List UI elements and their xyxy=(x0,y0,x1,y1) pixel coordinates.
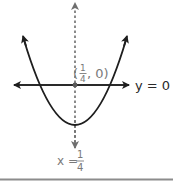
point-label-rest: , 0) xyxy=(87,66,109,81)
symmetry-label-lhs: x = xyxy=(57,154,78,168)
point-label-numerator: 1 xyxy=(80,63,86,73)
point-label-denominator: 4 xyxy=(80,74,86,84)
horizontal-line-label: y = 0 xyxy=(135,78,170,93)
symmetry-label-numerator: 1 xyxy=(77,149,83,160)
symmetry-label-denominator: 4 xyxy=(77,162,83,173)
symmetry-line-label: x = 1 4 xyxy=(57,149,84,173)
point-label-open-paren: ( xyxy=(73,66,78,81)
point-label: ( 1 4 , 0) xyxy=(73,63,109,84)
parabola-diagram: ( 1 4 , 0) y = 0 x = 1 4 xyxy=(0,0,173,181)
point-marker xyxy=(73,83,78,88)
